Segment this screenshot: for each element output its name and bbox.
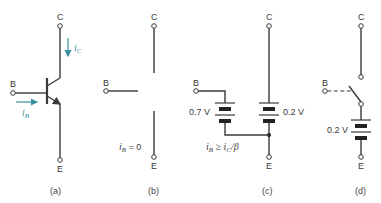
- emitter-terminal: [267, 155, 272, 160]
- collector-terminal: [58, 24, 63, 29]
- battery-0-7v: [215, 103, 235, 123]
- switch-lower-contact: [359, 102, 364, 107]
- caption-a: (a): [50, 186, 61, 196]
- collector-current-label: iC: [74, 42, 82, 55]
- emitter-label: E: [57, 164, 63, 174]
- collector-terminal: [267, 24, 272, 29]
- base-terminal: [194, 89, 199, 94]
- collector-label: C: [151, 12, 158, 22]
- voltage-label-0-2v: 0.2 V: [327, 125, 348, 135]
- transistor-models-figure: C E B iC iB (a) C B E iB = 0 (b): [0, 0, 381, 203]
- emitter-label: E: [266, 161, 272, 171]
- emitter-terminal: [152, 155, 157, 160]
- panel-c-saturation-model: C 0.2 V E B 0.7 V iB ≥ iC/β (c): [189, 12, 304, 196]
- base-current-label: iB: [22, 107, 30, 120]
- battery-0-2v: [351, 120, 371, 140]
- emitter-label: E: [358, 161, 364, 171]
- base-terminal: [323, 89, 328, 94]
- collector-label: C: [57, 12, 64, 22]
- saturation-condition-label: iB ≥ iC/β: [206, 141, 239, 154]
- battery-0-2v: [259, 103, 279, 123]
- emitter-terminal: [359, 155, 364, 160]
- caption-c: (c): [262, 186, 273, 196]
- voltage-label-0-2v: 0.2 V: [283, 107, 304, 117]
- panel-b-cutoff-model: C B E iB = 0 (b): [103, 12, 159, 196]
- caption-b: (b): [148, 186, 159, 196]
- collector-terminal: [152, 24, 157, 29]
- base-terminal: [104, 89, 109, 94]
- panel-d-switch-model: C B 0.2 V E (d): [322, 12, 371, 196]
- emitter-terminal: [58, 158, 63, 163]
- base-label: B: [103, 78, 109, 88]
- base-current-zero-label: iB = 0: [119, 141, 141, 154]
- base-terminal: [11, 91, 16, 96]
- base-label: B: [322, 78, 328, 88]
- base-label: B: [193, 78, 199, 88]
- caption-d: (d): [355, 186, 366, 196]
- collector-label: C: [358, 12, 365, 22]
- switch-upper-contact: [359, 75, 364, 80]
- collector-label: C: [266, 12, 273, 22]
- voltage-label-0-7v: 0.7 V: [189, 107, 210, 117]
- switch-blade: [349, 86, 361, 102]
- panel-a-bjt-symbol: C E B iC iB (a): [10, 12, 82, 196]
- collector-terminal: [359, 24, 364, 29]
- base-label: B: [10, 79, 16, 89]
- emitter-label: E: [151, 161, 157, 171]
